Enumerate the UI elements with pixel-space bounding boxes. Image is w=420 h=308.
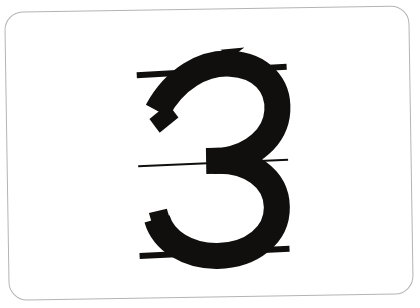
practice-card-canvas (0, 0, 420, 308)
numeral-three-waist-joint (206, 148, 236, 174)
screenshot-root: 3 Handwriting practice card showing the … (0, 0, 420, 308)
flashcard (5, 6, 413, 300)
